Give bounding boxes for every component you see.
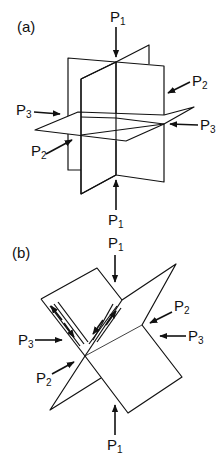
p3-right-arrow	[170, 124, 198, 125]
rear-fin-edge	[116, 45, 149, 64]
upper-left-plane-edge	[41, 268, 122, 300]
panel-b-label: (b)	[12, 244, 30, 261]
p3-right-label: P3	[200, 116, 216, 135]
right-fin-edge	[122, 264, 176, 325]
p1-top-label-b: P1	[108, 234, 124, 253]
p3-left-label-b: P3	[18, 331, 34, 350]
p2-right-label: P2	[192, 72, 208, 91]
back-plane-lower-edge	[68, 131, 81, 170]
slip-line-right-3	[97, 308, 121, 342]
p1-bottom-label-b: P1	[107, 436, 123, 455]
p2-right-arrow-b	[150, 312, 172, 323]
slip-line-left-2	[54, 304, 84, 344]
slip-line-right-1	[89, 306, 117, 344]
p2-left-label-b: P2	[36, 369, 52, 388]
lower-left-fin-edge	[50, 356, 101, 410]
p2-left-arrow-b	[52, 362, 74, 374]
panel-b: (b) P1 P1 P2 P2	[12, 234, 204, 455]
p1-bottom-label: P1	[108, 211, 124, 230]
front-plane-top-edge	[81, 62, 116, 79]
stress-diagram: (a) P1 P1 P2 P2 P3 P3 (b)	[0, 0, 222, 458]
panel-a: (a) P1 P1 P2 P2 P3 P3	[16, 8, 216, 230]
p2-right-label-b: P2	[174, 297, 190, 316]
upper-right-plane-side	[85, 300, 122, 356]
p2-left-label: P2	[31, 142, 47, 161]
p2-right-arrow	[168, 82, 190, 93]
panel-a-label: (a)	[17, 18, 35, 35]
p3-left-arrow	[34, 112, 60, 114]
slip-line-right-2	[93, 304, 113, 340]
front-plane-bottom-edge	[81, 175, 116, 194]
p3-left-label: P3	[16, 101, 32, 120]
p1-top-label: P1	[110, 8, 126, 27]
p3-right-label-b: P3	[188, 327, 204, 346]
upper-left-plane-side	[41, 299, 85, 356]
center-to-right-line	[85, 325, 142, 356]
